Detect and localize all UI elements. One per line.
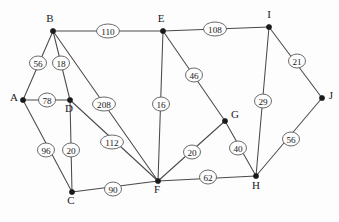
weight-value: 112 [105, 138, 119, 148]
graph-node-b[interactable]: B [46, 12, 55, 34]
weight-value: 21 [292, 57, 302, 67]
edge-weight-e-i: 108 [204, 22, 227, 36]
weight-value: 208 [97, 100, 111, 110]
edge-weight-f-h: 62 [200, 170, 217, 184]
graph-node-h[interactable]: H [252, 173, 260, 191]
node-label-d: D [65, 102, 73, 114]
graph-canvas: 5678961811020811220901081646204029215662… [0, 0, 339, 222]
weight-value: 20 [66, 146, 76, 156]
node-label-h: H [252, 179, 260, 191]
weight-value: 18 [56, 59, 66, 69]
edge-weight-b-e: 110 [97, 24, 120, 38]
node-dot-b[interactable] [50, 28, 55, 33]
graph-node-i[interactable]: I [266, 8, 271, 30]
edge-weight-e-g: 46 [186, 68, 203, 82]
weight-value: 40 [233, 144, 243, 154]
graph-node-j[interactable]: J [319, 89, 333, 101]
node-label-j: J [329, 89, 334, 101]
node-label-f: F [154, 183, 160, 195]
edge-weight-i-h: 29 [255, 94, 272, 108]
weight-value: 29 [258, 97, 268, 107]
edge-weight-a-d: 78 [39, 93, 56, 107]
node-dot-a[interactable] [20, 97, 25, 102]
node-label-e: E [158, 12, 165, 24]
node-label-b: B [46, 12, 53, 24]
weight-value: 108 [208, 25, 222, 35]
weight-value: 20 [187, 148, 197, 158]
weight-value: 46 [189, 71, 199, 81]
node-label-i: I [267, 8, 271, 20]
graph-node-c[interactable]: C [67, 189, 74, 206]
graph-node-a[interactable]: A [10, 91, 26, 103]
node-label-a: A [10, 91, 18, 103]
edge-weight-d-c: 20 [63, 143, 80, 157]
nodes-layer: ABCDEFGHIJ [10, 8, 334, 206]
weight-value: 96 [41, 146, 51, 156]
weight-value: 56 [286, 135, 296, 145]
node-dot-g[interactable] [222, 118, 227, 123]
edge-weight-e-f: 16 [153, 97, 170, 111]
edge-weight-g-h: 40 [230, 141, 247, 155]
node-label-g: G [231, 108, 239, 120]
node-dot-e[interactable] [160, 28, 165, 33]
edge-weight-d-f: 112 [101, 135, 124, 149]
edge-weight-a-b: 56 [30, 56, 47, 70]
edge-weight-a-c: 96 [38, 143, 55, 157]
edge-weight-b-f: 208 [93, 97, 116, 111]
weight-value: 56 [33, 59, 43, 69]
node-label-c: C [67, 194, 74, 206]
graph-svg: 5678961811020811220901081646204029215662… [0, 0, 339, 222]
edge-weight-b-d: 18 [53, 56, 70, 70]
graph-node-g[interactable]: G [222, 108, 239, 124]
weight-value: 62 [203, 173, 213, 183]
edge-weight-j-h: 56 [283, 132, 300, 146]
node-dot-j[interactable] [319, 95, 324, 100]
edge-weight-g-f: 20 [184, 145, 201, 159]
node-dot-h[interactable] [253, 173, 258, 178]
weight-value: 16 [156, 100, 166, 110]
edge-weight-i-j: 21 [289, 54, 306, 68]
weight-value: 90 [108, 185, 118, 195]
weight-value: 78 [42, 96, 52, 106]
node-dot-i[interactable] [266, 24, 271, 29]
graph-node-e[interactable]: E [158, 12, 166, 34]
edge-weight-c-f: 90 [105, 182, 122, 196]
weight-value: 110 [101, 27, 115, 37]
